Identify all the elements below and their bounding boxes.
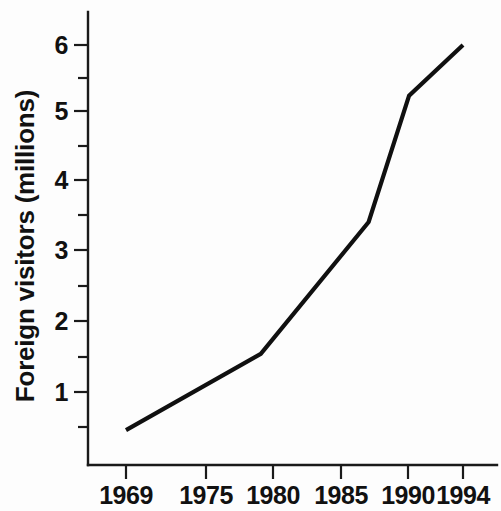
x-tick-label: 1980: [246, 481, 300, 509]
x-tick-label: 1990: [381, 481, 435, 509]
y-tick-label: 6: [55, 31, 68, 59]
y-tick-label: 4: [55, 166, 69, 194]
chart-figure: Foreign visitors (millions): [0, 0, 501, 511]
x-tick-label: 1994: [436, 481, 490, 509]
x-axis-major-ticks: [126, 465, 463, 479]
x-tick-label: 1969: [99, 481, 153, 509]
y-tick-label: 3: [55, 236, 68, 264]
x-tick-label: 1975: [179, 481, 233, 509]
y-axis-tick-labels: 6 5 4 3 2 1: [55, 31, 69, 406]
y-tick-label: 5: [55, 97, 69, 125]
y-axis-label: Foreign visitors (millions): [10, 90, 40, 402]
y-axis-major-ticks: [74, 45, 88, 392]
data-series-line: [126, 45, 463, 430]
y-tick-label: 1: [55, 378, 69, 406]
y-tick-label: 2: [55, 307, 68, 335]
x-axis-tick-labels: 1969 1975 1980 1985 1990 1994: [99, 481, 490, 509]
y-axis-minor-ticks: [78, 78, 88, 427]
x-tick-label: 1985: [314, 481, 368, 509]
line-chart-plot: Foreign visitors (millions): [0, 0, 501, 511]
